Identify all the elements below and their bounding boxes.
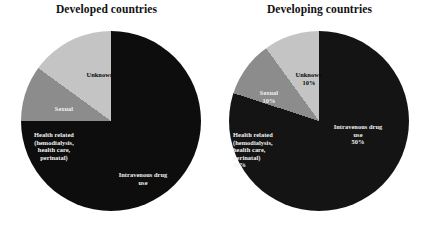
pie-slice-label-sexual: Sexual 10%	[241, 89, 297, 104]
pie-chart-developing: Unknown 10% Sexual 10% Health related (h…	[229, 31, 409, 211]
pie-slices-developing	[229, 31, 409, 211]
pie-slice-label-intravenous-drug-use: Intravenous drug use 50%	[315, 123, 401, 146]
pie-chart-developed: Unknown Sexual Health related (hemodialy…	[21, 31, 201, 211]
pie-slice-label-health-related: Health related (hemodialysis, health car…	[11, 131, 97, 161]
pie-slice-label-unknown: Unknown 10%	[277, 71, 341, 86]
page-title-developed: Developed countries	[0, 3, 213, 16]
chart-panel-developed: Developed countries Unknown Sexual Healt…	[0, 0, 213, 234]
pie-slice-label-sexual: Sexual	[37, 105, 91, 113]
pie-slice-label-unknown: Unknown	[67, 71, 133, 79]
page-title-developing: Developing countries	[213, 3, 426, 16]
chart-panel-developing: Developing countries Unknown 10% Sexual …	[213, 0, 426, 234]
pie-slice-label-intravenous-drug-use: Intravenous drug use	[101, 171, 185, 186]
pie-slice-label-health-related: Health related (hemodialysis, health car…	[223, 131, 309, 169]
